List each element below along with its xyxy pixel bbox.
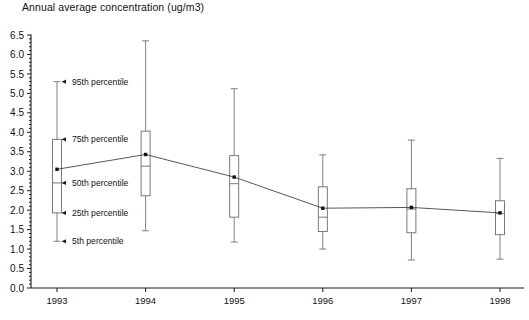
x-tick-label: 1993: [46, 295, 67, 306]
y-tick-label: 1.5: [10, 224, 24, 235]
annotation-label: 95th percentile: [72, 77, 129, 87]
annotation-label: 75th percentile: [72, 134, 129, 144]
box-whisker-1994: [141, 41, 150, 231]
annotation-5th-percentile: 5th percentile: [62, 236, 124, 246]
y-tick-label: 6.0: [10, 49, 24, 60]
y-tick-label: 6.5: [10, 30, 24, 41]
x-tick-label: 1997: [401, 295, 422, 306]
annotation-label: 50th percentile: [72, 178, 129, 188]
annotation-label: 25th percentile: [72, 208, 129, 218]
annotation-50th-percentile: 50th percentile: [62, 178, 129, 188]
mean-marker-1994: [144, 153, 147, 156]
x-tick-label: 1995: [224, 295, 245, 306]
y-tick-label: 1.0: [10, 244, 24, 255]
y-tick-label: 0.5: [10, 263, 24, 274]
mean-marker-1993: [55, 168, 58, 171]
y-tick-label: 2.5: [10, 185, 24, 196]
box-whisker-1997: [407, 140, 416, 260]
mean-marker-1997: [410, 206, 413, 209]
box-whisker-1995: [230, 89, 239, 242]
mean-marker-1996: [321, 207, 324, 210]
box-plot-chart: Annual average concentration (ug/m3) 0.0…: [0, 0, 529, 320]
x-tick-label: 1996: [312, 295, 333, 306]
plot-area: 0.00.51.01.52.02.53.03.54.04.55.05.56.06…: [0, 0, 529, 320]
x-axis: 199319941995199619971998: [31, 288, 524, 306]
x-tick-label: 1998: [489, 295, 510, 306]
percentile-annotations: 95th percentile75th percentile50th perce…: [62, 77, 129, 247]
box-whisker-1996: [318, 155, 327, 249]
x-tick-label: 1994: [135, 295, 156, 306]
annotation-label: 5th percentile: [72, 236, 124, 246]
box-whisker-1998: [496, 158, 505, 259]
y-tick-label: 4.5: [10, 107, 24, 118]
y-tick-label: 0.0: [10, 283, 24, 294]
y-axis: 0.00.51.01.52.02.53.03.54.04.55.05.56.06…: [10, 30, 31, 294]
y-tick-label: 3.0: [10, 166, 24, 177]
y-tick-label: 5.5: [10, 69, 24, 80]
mean-marker-1998: [498, 211, 501, 214]
y-tick-label: 4.0: [10, 127, 24, 138]
annotation-75th-percentile: 75th percentile: [62, 134, 129, 144]
box-whisker-1993: [53, 82, 62, 242]
y-tick-label: 3.5: [10, 146, 24, 157]
mean-marker-1995: [233, 175, 236, 178]
y-tick-label: 2.0: [10, 205, 24, 216]
annotation-25th-percentile: 25th percentile: [62, 208, 129, 218]
box-whisker-series: [53, 41, 505, 260]
y-tick-label: 5.0: [10, 88, 24, 99]
annotation-95th-percentile: 95th percentile: [62, 77, 129, 87]
